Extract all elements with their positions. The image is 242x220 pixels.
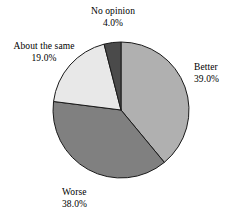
pie-label-no-opinion: No opinion 4.0% — [78, 5, 148, 29]
pie-label-no-opinion-value: 4.0% — [78, 17, 148, 29]
pie-label-better: Better 39.0% — [194, 61, 240, 85]
pie-label-about-the-same-name: About the same — [2, 40, 86, 52]
pie-label-worse-value: 38.0% — [62, 198, 120, 210]
pie-chart-canvas — [0, 0, 242, 220]
pie-label-no-opinion-name: No opinion — [78, 5, 148, 17]
pie-label-worse-name: Worse — [62, 186, 120, 198]
pie-label-about-the-same-value: 19.0% — [2, 52, 86, 64]
pie-label-about-the-same: About the same 19.0% — [2, 40, 86, 64]
pie-label-better-name: Better — [194, 61, 240, 73]
pie-label-worse: Worse 38.0% — [62, 186, 120, 210]
pie-label-better-value: 39.0% — [194, 73, 240, 85]
pie-chart: No opinion 4.0% About the same 19.0% Bet… — [0, 0, 242, 220]
